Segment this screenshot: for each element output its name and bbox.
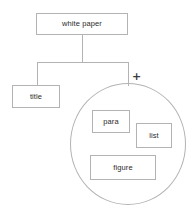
- node-list-label: list: [149, 132, 159, 140]
- node-title-label: title: [30, 93, 42, 101]
- plus-icon: +: [132, 71, 141, 82]
- node-list[interactable]: list: [136, 123, 172, 148]
- diagram-canvas: + white paper title para list figure: [0, 0, 196, 220]
- node-figure-label: figure: [113, 164, 132, 172]
- node-para-label: para: [103, 118, 118, 126]
- node-title[interactable]: title: [12, 85, 60, 108]
- node-white-paper-label: white paper: [62, 20, 102, 28]
- node-white-paper[interactable]: white paper: [36, 13, 128, 35]
- node-para[interactable]: para: [92, 110, 130, 133]
- node-figure[interactable]: figure: [90, 155, 156, 180]
